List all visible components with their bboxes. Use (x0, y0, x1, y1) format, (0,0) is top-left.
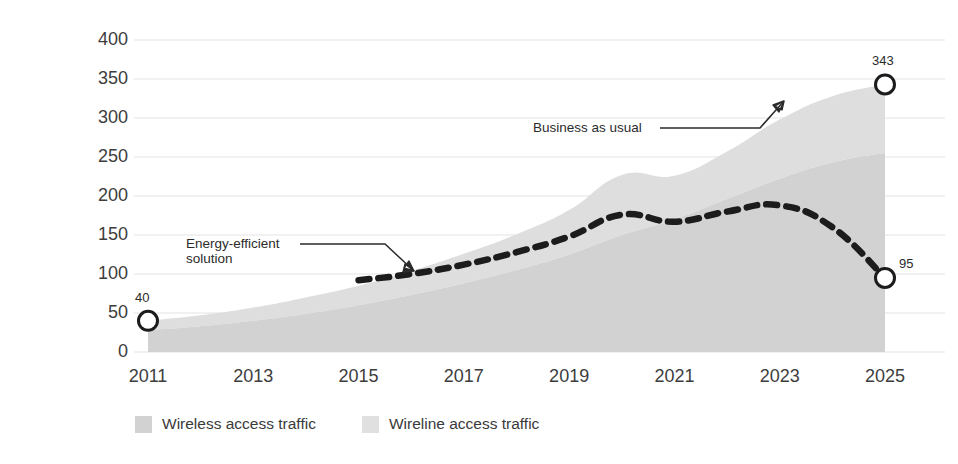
legend-label-wireline: Wireline access traffic (389, 415, 539, 433)
legend-swatch-wireline (362, 416, 379, 433)
marker-label-business-as-usual-end-marker: 343 (872, 53, 894, 68)
marker-label-start-marker: 40 (135, 290, 149, 305)
marker-energy-efficient-end-marker (876, 268, 895, 287)
annotation-leader-energy-efficient-solution (300, 244, 414, 271)
annotation-line-0: Energy-efficient (186, 236, 280, 251)
legend-swatch-wireless (135, 416, 152, 433)
chart-legend: Wireless access traffic Wireline access … (135, 415, 539, 433)
annotation-line-1: solution (186, 251, 280, 266)
marker-start-marker (139, 311, 158, 330)
chart-container: Global annual network energy spend ($B) … (0, 0, 958, 464)
annotation-business-as-usual: Business as usual (533, 120, 642, 135)
marker-business-as-usual-end-marker (876, 75, 895, 94)
annotation-energy-efficient-solution: Energy-efficientsolution (186, 236, 280, 266)
legend-label-wireless: Wireless access traffic (162, 415, 316, 433)
legend-item-wireline[interactable]: Wireline access traffic (362, 415, 539, 433)
annotation-leader-business-as-usual (660, 101, 784, 128)
plot-area (0, 0, 958, 464)
marker-label-energy-efficient-end-marker: 95 (899, 256, 913, 271)
legend-item-wireless[interactable]: Wireless access traffic (135, 415, 316, 433)
